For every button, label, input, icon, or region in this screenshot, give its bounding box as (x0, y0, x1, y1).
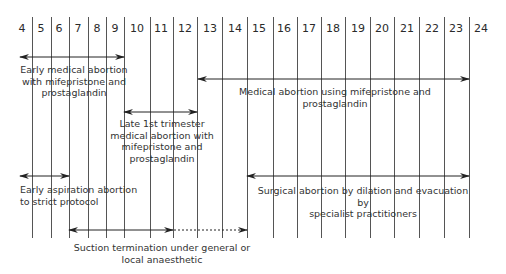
caption-medical-mife: Medical abortion using mifepristone and … (200, 86, 470, 109)
caption-line: Late 1st trimester (105, 118, 219, 130)
range-arrows (0, 0, 506, 274)
caption-line: local anaesthetic (72, 254, 252, 266)
caption-line: prostaglandin (16, 87, 132, 99)
caption-suction-termination: Suction termination under general or loc… (72, 242, 252, 265)
caption-line: mifepristone and (105, 141, 219, 153)
caption-line: Surgical abortion by dilation and evacua… (252, 185, 474, 208)
caption-line: Suction termination under general or (72, 242, 252, 254)
caption-line: prostaglandin (200, 98, 470, 110)
caption-line: Medical abortion using mifepristone and (200, 86, 470, 98)
caption-line: prostaglandin (105, 153, 219, 165)
caption-line: medical abortion with (105, 130, 219, 142)
caption-line: Early medical abortion (16, 64, 132, 76)
caption-line: with mifepristone and (16, 76, 132, 88)
caption-line: Early aspiration abortion (20, 184, 140, 196)
caption-early-medical: Early medical abortion with mifepristone… (16, 64, 132, 99)
caption-early-aspiration: Early aspiration abortion to strict prot… (20, 184, 140, 207)
caption-late-first-trimester: Late 1st trimester medical abortion with… (105, 118, 219, 164)
caption-surgical-de: Surgical abortion by dilation and evacua… (252, 185, 474, 220)
caption-line: specialist practitioners (252, 208, 474, 220)
caption-line: to strict protocol (20, 196, 140, 208)
